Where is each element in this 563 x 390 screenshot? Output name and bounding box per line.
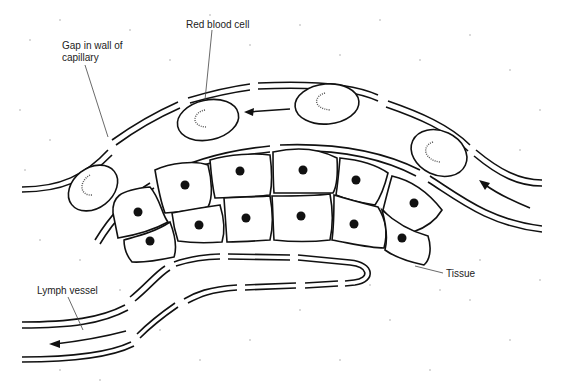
- lymph-vessel: [22, 254, 370, 362]
- leader-gap: [85, 65, 108, 137]
- red-blood-cell-1: [174, 94, 243, 146]
- lymph-flow-arrow: [55, 331, 126, 344]
- label-tissue: Tissue: [446, 268, 475, 280]
- leader-tissue: [415, 266, 443, 273]
- capillary-flow-arrow-right: [484, 184, 530, 208]
- leader-red-blood-cell: [205, 30, 212, 100]
- label-gap-in-wall-line1: Gap in wall of: [62, 40, 123, 52]
- capillary-flow-arrow: [248, 109, 290, 112]
- label-red-blood-cell: Red blood cell: [186, 19, 249, 31]
- label-lymph-vessel: Lymph vessel: [37, 285, 98, 297]
- label-gap-in-wall-line2: capillary: [62, 52, 99, 64]
